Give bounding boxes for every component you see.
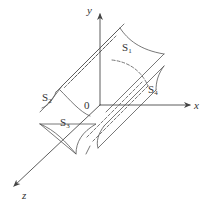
z-axis-label: z [22, 190, 26, 201]
surface-label-s1: S1 [122, 42, 132, 55]
origin-label: 0 [84, 100, 90, 111]
hidden-edge-2 [70, 40, 112, 82]
surface-s4-bottom [86, 146, 90, 154]
x-axis-label: x [194, 100, 199, 111]
z-axis [14, 105, 100, 186]
cylindrical-surfaces-diagram: y x z 0 S1 S2 S3 S4 [0, 0, 209, 206]
surface-s1-ridge-top2 [56, 24, 124, 92]
y-axis-label: y [87, 5, 92, 16]
hidden-arc [112, 60, 148, 86]
surface-s4-front [98, 90, 156, 148]
surface-s4-front-curve [97, 126, 104, 148]
surface-label-s2: S2 [42, 92, 52, 105]
surface-label-s4: S4 [148, 84, 158, 97]
diagram-drawing [0, 0, 209, 206]
surface-label-s3: S3 [60, 117, 70, 130]
surface-s1-front-edge [106, 54, 164, 112]
